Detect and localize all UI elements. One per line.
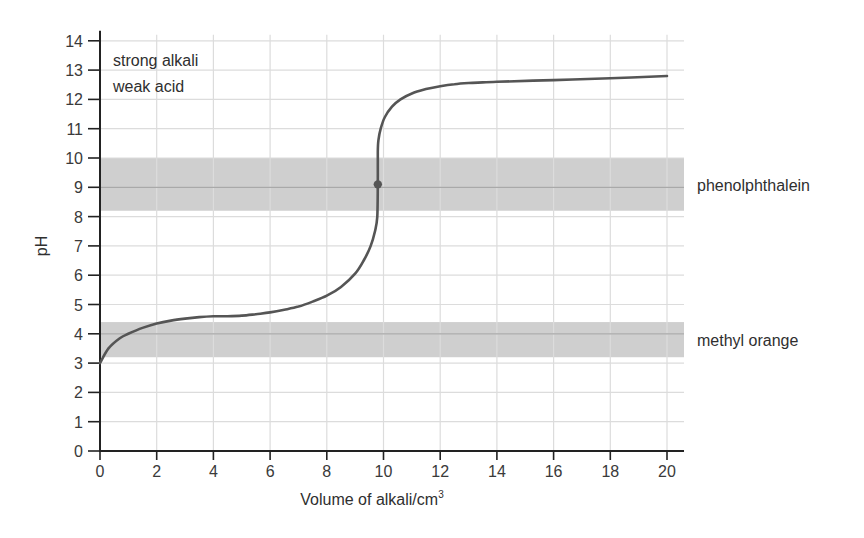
y-tick-label: 3 [74, 355, 83, 372]
indicator-band [100, 158, 684, 211]
y-tick-label: 5 [74, 297, 83, 314]
x-tick-label: 4 [209, 463, 218, 480]
y-tick-label: 0 [74, 443, 83, 460]
y-tick-label: 8 [74, 209, 83, 226]
y-tick-label: 10 [65, 150, 83, 167]
x-tick-label: 2 [152, 463, 161, 480]
x-axis-title-superscript: 3 [438, 489, 444, 500]
y-tick-label: 7 [74, 238, 83, 255]
x-tick-label: 18 [601, 463, 619, 480]
x-tick-label: 16 [545, 463, 563, 480]
y-tick-label: 14 [65, 33, 83, 50]
titration-chart: 0123456789101112131402468101214161820 st… [0, 0, 864, 538]
annotation-line-1: strong alkali [113, 52, 198, 69]
y-tick-label: 13 [65, 62, 83, 79]
x-tick-label: 14 [488, 463, 506, 480]
x-tick-label: 12 [431, 463, 449, 480]
y-axis-title: pH [33, 236, 50, 256]
x-tick-label: 8 [322, 463, 331, 480]
x-tick-label: 0 [96, 463, 105, 480]
annotation-line-2: weak acid [112, 78, 184, 95]
y-tick-label: 12 [65, 91, 83, 108]
x-tick-label: 6 [266, 463, 275, 480]
grid [100, 35, 684, 451]
x-tick-label: 10 [375, 463, 393, 480]
y-tick-label: 6 [74, 267, 83, 284]
x-tick-label: 20 [658, 463, 676, 480]
x-axis-title: Volume of alkali/cm3 [300, 489, 444, 508]
equivalence-point-marker [374, 180, 382, 188]
y-tick-label: 11 [66, 121, 83, 138]
axes: 0123456789101112131402468101214161820 [65, 31, 684, 480]
band-label-phenolphthalein: phenolphthalein [697, 177, 810, 194]
y-tick-label: 4 [74, 326, 83, 343]
band-label-methyl-orange: methyl orange [697, 332, 798, 349]
y-tick-label: 9 [74, 179, 83, 196]
y-tick-label: 1 [74, 414, 83, 431]
indicator-band [100, 322, 684, 357]
x-axis-title-text: Volume of alkali/cm [300, 491, 438, 508]
y-tick-label: 2 [74, 384, 83, 401]
